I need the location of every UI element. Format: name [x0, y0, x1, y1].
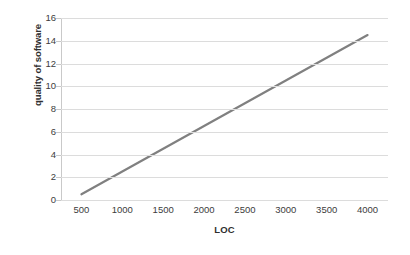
gridline-y	[61, 64, 388, 65]
y-tick-label: 6	[31, 127, 56, 137]
y-tick-label: 16	[31, 13, 56, 23]
x-axis-tick-labels: 5001000150020002500300035004000	[61, 203, 388, 219]
y-tick-mark	[56, 155, 61, 156]
y-tick-mark	[56, 18, 61, 19]
gridline-y	[61, 155, 388, 156]
series-line	[81, 35, 367, 194]
line-chart: quality of software 0246810121416 500100…	[0, 0, 410, 255]
gridline-y	[61, 177, 388, 178]
gridline-y	[61, 200, 388, 201]
y-tick-mark	[56, 109, 61, 110]
y-tick-mark	[56, 177, 61, 178]
x-axis-title: LOC	[61, 224, 388, 235]
gridline-y	[61, 109, 388, 110]
y-tick-mark	[56, 200, 61, 201]
y-tick-mark	[56, 132, 61, 133]
y-tick-mark	[56, 86, 61, 87]
y-tick-label: 2	[31, 172, 56, 182]
plot-area	[61, 18, 388, 200]
y-tick-label: 10	[31, 81, 56, 91]
gridline-y	[61, 18, 388, 19]
y-tick-label: 14	[31, 36, 56, 46]
y-tick-label: 8	[31, 104, 56, 114]
y-axis-tick-labels: 0246810121416	[31, 18, 56, 200]
gridline-y	[61, 41, 388, 42]
y-tick-label: 12	[31, 59, 56, 69]
x-tick-label: 4000	[343, 203, 393, 217]
y-tick-label: 4	[31, 150, 56, 160]
gridline-y	[61, 86, 388, 87]
y-tick-mark	[56, 64, 61, 65]
gridline-y	[61, 132, 388, 133]
y-tick-mark	[56, 41, 61, 42]
y-tick-label: 0	[31, 195, 56, 205]
